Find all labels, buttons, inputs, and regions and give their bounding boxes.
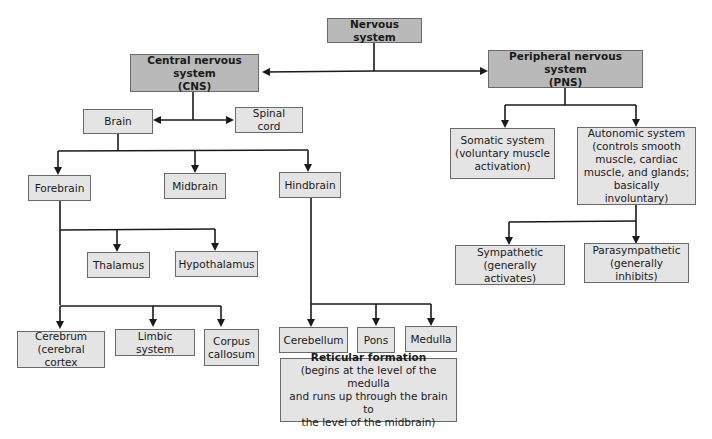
node-label: basically involuntary) [582, 179, 691, 205]
node-label: Midbrain [172, 180, 218, 193]
node-brain: Brain [83, 109, 153, 134]
node-forebrain: Forebrain [28, 175, 91, 201]
node-reticular-formation: Reticular formation (begins at the level… [280, 358, 457, 422]
node-spinal-cord: Spinal cord [235, 107, 303, 133]
node-label: Forebrain [35, 182, 85, 195]
node-label: Autonomic system [588, 127, 686, 140]
node-autonomic-system: Autonomic system (controls smooth muscle… [577, 127, 696, 205]
node-thalamus: Thalamus [87, 252, 150, 278]
node-label: Cerebrum [35, 330, 87, 343]
node-cerebellum: Cerebellum [279, 327, 348, 353]
node-label: (generally activates) [460, 259, 560, 285]
node-label: (voluntary muscle [455, 147, 550, 160]
node-label: Corpus [213, 335, 250, 348]
node-label: and runs up through the brain to [285, 390, 452, 416]
node-label: Somatic system [461, 134, 545, 147]
node-label: muscle, cardiac [595, 153, 677, 166]
node-label: Sympathetic [477, 246, 543, 259]
node-label: Medulla [410, 333, 451, 346]
node-hypothalamus: Hypothalamus [175, 251, 258, 277]
node-label: Central nervous system [135, 54, 254, 80]
node-label: Hypothalamus [178, 258, 254, 271]
node-label: Pons [364, 334, 389, 347]
node-label: Nervous system [332, 18, 417, 44]
node-label: callosum [208, 348, 255, 361]
node-label: Parasympathetic [592, 244, 680, 257]
node-label: Cerebellum [283, 334, 343, 347]
node-label: (begins at the level of the medulla [285, 364, 452, 390]
node-label: Thalamus [93, 259, 144, 272]
node-label: muscle, and glands; [584, 166, 690, 179]
node-cns: Central nervous system (CNS) [130, 54, 259, 92]
node-nervous-system: Nervous system [327, 18, 422, 43]
node-midbrain: Midbrain [164, 173, 226, 199]
node-label: the level of the midbrain) [302, 416, 436, 429]
node-medulla: Medulla [405, 326, 457, 352]
node-parasympathetic: Parasympathetic (generally inhibits) [584, 243, 689, 283]
node-somatic-system: Somatic system (voluntary muscle activat… [450, 128, 555, 179]
node-label: Limbic system [120, 330, 190, 356]
node-limbic-system: Limbic system [115, 329, 195, 356]
node-label: (cerebral cortex [22, 343, 100, 369]
node-pons: Pons [357, 327, 395, 353]
node-hindbrain: Hindbrain [279, 172, 341, 198]
node-label: Peripheral nervous system [493, 50, 638, 76]
node-label: Brain [104, 115, 132, 128]
node-label: (controls smooth [592, 140, 681, 153]
node-cerebrum: Cerebrum (cerebral cortex [17, 331, 105, 368]
node-pns: Peripheral nervous system (PNS) [488, 50, 643, 88]
node-corpus-callosum: Corpus callosum [204, 329, 259, 366]
node-label: (PNS) [549, 76, 583, 89]
node-label: Reticular formation [311, 351, 426, 364]
node-label: activation) [474, 160, 530, 173]
node-label: Hindbrain [284, 179, 335, 192]
node-label: Spinal cord [240, 107, 298, 133]
node-sympathetic: Sympathetic (generally activates) [455, 245, 565, 285]
node-label: (generally inhibits) [589, 257, 684, 283]
node-label: (CNS) [178, 80, 212, 93]
